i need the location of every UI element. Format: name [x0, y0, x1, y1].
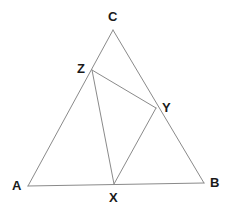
- segment-group: [28, 30, 204, 186]
- cevian-YX: [114, 108, 156, 184]
- side-AC: [28, 30, 113, 186]
- side-AB: [28, 183, 204, 186]
- side-CB: [113, 30, 204, 183]
- vertex-label-y: Y: [162, 101, 171, 114]
- geometry-canvas: [0, 0, 229, 219]
- vertex-label-c: C: [108, 10, 117, 23]
- vertex-label-a: A: [12, 179, 21, 192]
- cevian-ZX: [92, 70, 114, 184]
- cevian-ZY: [92, 70, 156, 108]
- vertex-label-z: Z: [77, 62, 85, 75]
- geometry-figure: A B C X Y Z: [0, 0, 229, 219]
- vertex-label-x: X: [109, 191, 118, 204]
- vertex-label-b: B: [210, 176, 219, 189]
